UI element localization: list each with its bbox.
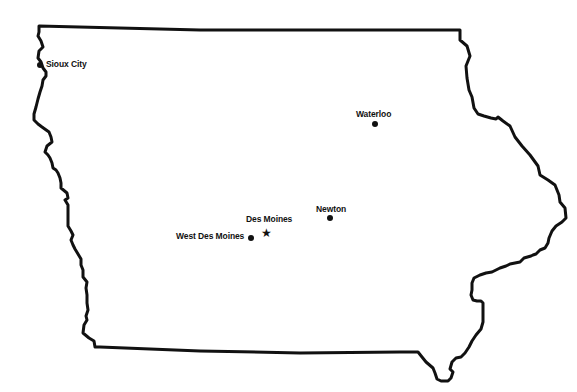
newton-marker-icon [327, 215, 333, 221]
west-des-moines-label: West Des Moines [176, 231, 244, 241]
capital-star-icon: ★ [261, 227, 272, 239]
west-des-moines-marker-icon [248, 235, 254, 241]
waterloo-marker-icon [372, 121, 378, 127]
state-outline [34, 26, 566, 381]
sioux-city-label: Sioux City [46, 59, 87, 69]
des-moines-label: Des Moines [246, 214, 292, 224]
newton-label: Newton [316, 204, 346, 214]
waterloo-label: Waterloo [356, 109, 391, 119]
sioux-city-marker-icon [37, 62, 43, 68]
